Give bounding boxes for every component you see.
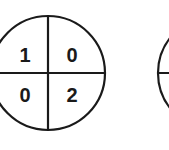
quadrant-top-right: 0 <box>66 44 77 66</box>
quadrant-bottom-right: 2 <box>66 84 77 106</box>
quadrant-circle-1: 1 0 0 2 <box>0 16 105 130</box>
quadrant-top-left: 1 <box>19 44 30 66</box>
quadrant-circle-2 <box>158 16 169 130</box>
quadrant-bottom-left: 0 <box>19 84 30 106</box>
diagram-canvas: 1 0 0 2 <box>0 0 169 150</box>
